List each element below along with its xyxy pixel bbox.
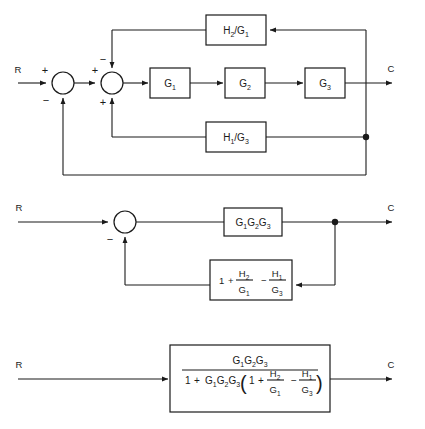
tf-paren-close: )	[316, 372, 323, 394]
summing-junction-3	[114, 211, 136, 233]
diagram-original: R + − + − + G1 G2 G3 C	[15, 15, 395, 175]
input-label-r-3: R	[16, 359, 23, 370]
block-diagram-figure: R + − + − + G1 G2 G3 C	[0, 0, 425, 429]
summing-junction-2	[101, 72, 123, 94]
sum2-sign-minus-top: −	[100, 53, 106, 65]
output-label-c: C	[388, 63, 395, 74]
feedback-plus: +	[228, 275, 234, 286]
tf-inner-minus: −	[291, 375, 297, 386]
tf-inner-plus: +	[258, 375, 264, 386]
sum1-sign-minus-bottom: −	[43, 94, 49, 106]
sum3-sign-minus: −	[107, 233, 113, 245]
sum2-sign-plus-left: +	[92, 64, 98, 76]
summing-junction-1	[52, 72, 74, 94]
feedback-minus: −	[261, 275, 267, 286]
tf-paren-open: (	[240, 372, 247, 394]
diagram-reduced: R − G1G2G3 C 1 + H2 G1 − H1	[16, 202, 395, 300]
tf-inner-one: 1	[249, 375, 255, 386]
input-label-r-2: R	[16, 202, 23, 213]
output-label-c-3: C	[388, 359, 395, 370]
input-label-r: R	[15, 64, 22, 75]
tf-den-plus: +	[194, 375, 200, 386]
output-label-c-2: C	[388, 202, 395, 213]
sum1-sign-plus-left: +	[42, 64, 48, 76]
feedback-one: 1	[219, 275, 224, 286]
diagram-closed-loop: R G1G2G3 1 + G1G2G3 ( 1 + H2 G1	[16, 345, 395, 412]
sum2-sign-plus-bottom: +	[100, 96, 106, 108]
tf-den-one: 1	[185, 375, 191, 386]
